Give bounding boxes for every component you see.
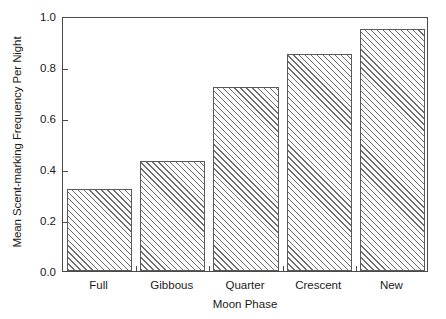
x-tick-label: Gibbous xyxy=(135,278,208,292)
bar xyxy=(140,161,205,271)
bars-layer xyxy=(63,18,427,271)
bar xyxy=(287,54,352,271)
y-tick-label: 0.2 xyxy=(22,215,56,227)
plot-area xyxy=(62,17,428,272)
x-tick-label: New xyxy=(355,278,428,292)
bar xyxy=(360,29,425,271)
y-tick-label: 0.0 xyxy=(22,266,56,278)
y-tick-label: 0.4 xyxy=(22,164,56,176)
y-axis-tick-labels: 0.00.20.40.60.81.0 xyxy=(22,0,56,319)
y-tick-label: 1.0 xyxy=(22,11,56,23)
bar-chart: Mean Scent-marking Frequency Per Night 0… xyxy=(0,0,446,319)
y-tick-label: 0.8 xyxy=(22,62,56,74)
x-tick-label: Quarter xyxy=(208,278,281,292)
y-tick-label: 0.6 xyxy=(22,113,56,125)
bar xyxy=(213,87,278,271)
x-tick-label: Full xyxy=(62,278,135,292)
bar xyxy=(67,189,132,271)
x-axis-title: Moon Phase xyxy=(62,297,428,311)
x-tick-label: Crescent xyxy=(282,278,355,292)
x-axis-tick-labels: FullGibbousQuarterCrescentNew xyxy=(62,278,428,294)
